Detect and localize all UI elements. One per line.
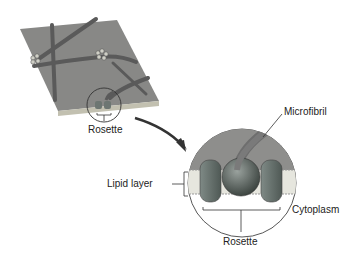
label-rosette-top: Rosette (88, 124, 122, 135)
label-microfibril: Microfibril (284, 106, 327, 117)
zoom-arrow (135, 118, 187, 152)
membrane-sheet (20, 20, 159, 116)
label-lipid-layer: Lipid layer (107, 178, 153, 189)
rosette-detail (186, 128, 298, 237)
diagram-canvas (0, 0, 355, 261)
label-cytoplasm: Cytoplasm (292, 204, 339, 215)
label-rosette-bottom: Rosette (223, 236, 257, 247)
